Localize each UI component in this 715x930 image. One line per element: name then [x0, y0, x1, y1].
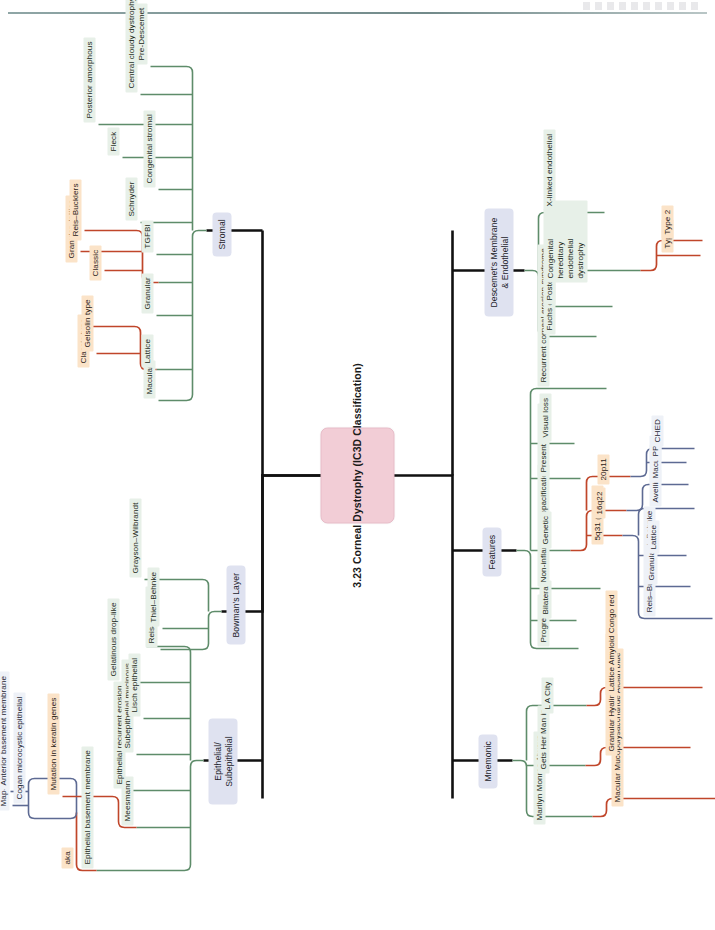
leaf-granular-stromal[interactable]: Granular — [142, 273, 152, 313]
mindmap-rotated-wrapper: 3.23 Corneal Dystrophy (IC3D Classificat… — [0, 0, 715, 930]
category-label: Stromal — [212, 212, 231, 256]
leaf-grayson-wilbrandt[interactable]: Grayson–Wilbrandt — [130, 498, 140, 577]
leaf-locus-20p11[interactable]: 20p11 — [598, 454, 608, 484]
leaf-lattice-gelsolin-type[interactable]: Gelsolin type — [82, 295, 92, 351]
leaf-label: Epithelial basement membrane — [81, 746, 93, 868]
leaf-granular-reis-bucklers[interactable]: Reis–Bucklers — [70, 179, 80, 240]
leaf-label: Granular — [141, 273, 153, 313]
leaf-thiel-behnke-bowman[interactable]: Thiel–Behnke — [148, 567, 158, 626]
leaf-label: Mutation in keratin genes — [47, 693, 59, 794]
leaf-gelatinous-drop-like[interactable]: Gelatinous drop-like — [108, 598, 118, 680]
leaf-label: 16q22 — [593, 487, 605, 518]
category-label: Mnemonic — [478, 734, 497, 788]
leaf-lattice-genetic[interactable]: Lattice — [648, 520, 658, 553]
leaf-fleck[interactable]: Fleck — [108, 127, 118, 155]
leaf-tgfbi[interactable]: TGFBI — [142, 220, 152, 252]
leaf-granular-classic[interactable]: Classic — [90, 245, 100, 280]
leaf-label: Gelsolin type — [81, 295, 93, 351]
leaf-label: Schnyder — [125, 177, 137, 220]
leaf-label: Anterior basement membrane — [0, 671, 9, 789]
leaf-pre-descemet[interactable]: Pre-Descemet — [136, 3, 146, 64]
leaf-label: CHED — [651, 415, 663, 446]
page-canvas: 3.23 Corneal Dystrophy (IC3D Classificat… — [0, 0, 715, 930]
leaf-label: Gelatinous drop-like — [107, 598, 119, 680]
category-descemet-endothelial[interactable]: Descemet's Membrane & Endothelial — [484, 208, 513, 316]
leaf-label: Congenital stromal — [143, 110, 155, 187]
category-stromal[interactable]: Stromal — [212, 212, 231, 256]
leaf-lattice-amyloid-congo-red[interactable]: Lattice Amyloid Congo red — [606, 590, 616, 695]
leaf-label: 20p11 — [597, 454, 609, 484]
category-features[interactable]: Features — [482, 527, 501, 576]
leaf-schnyder[interactable]: Schnyder — [126, 177, 136, 220]
leaf-label: Type 2 — [661, 205, 673, 238]
leaf-label: Gets Her Man in — [537, 705, 549, 773]
leaf-label: Congenital hereditary endothelial dystro… — [544, 200, 587, 282]
leaf-ched-type-2[interactable]: Type 2 — [662, 205, 672, 238]
root-node[interactable]: 3.23 Corneal Dystrophy (IC3D Classificat… — [320, 427, 394, 523]
category-label: Features — [482, 527, 501, 576]
category-epithelial-subepithelial[interactable]: Epithelial/ Subepithelial — [208, 718, 237, 804]
leaf-la-city[interactable]: L A City — [542, 677, 552, 713]
leaf-label: Posterior amorphous — [83, 37, 95, 122]
leaf-label: Reis–Bucklers — [69, 179, 81, 240]
category-label: Bowman's Layer — [226, 565, 245, 644]
leaf-congenital-stromal[interactable]: Congenital stromal — [144, 110, 154, 187]
leaf-x-linked-endothelial[interactable]: X-linked endothelial — [544, 129, 554, 210]
leaf-label: Pre-Descemet — [135, 3, 147, 64]
leaf-epithelial-basement-membrane[interactable]: Epithelial basement membrane — [82, 746, 92, 868]
leaf-central-cloudy-dystrophy-francois[interactable]: Central cloudy dystrophy of Francois — [126, 0, 136, 92]
leaf-label: Lattice Amyloid Congo red — [605, 590, 617, 695]
leaf-anterior-basement-membrane[interactable]: Anterior basement membrane — [0, 671, 8, 789]
leaf-locus-16q22[interactable]: 16q22 — [594, 487, 604, 518]
category-bowmans-layer[interactable]: Bowman's Layer — [226, 565, 245, 644]
leaf-label: Visual loss — [539, 393, 551, 441]
link-label: aka — [61, 847, 73, 868]
leaf-label: X-linked endothelial — [543, 129, 555, 210]
leaf-posterior-amorphous[interactable]: Posterior amorphous — [84, 37, 94, 122]
category-label: Descemet's Membrane & Endothelial — [484, 208, 513, 316]
leaf-visual-loss[interactable]: Visual loss — [540, 393, 550, 441]
leaf-lattice-stromal[interactable]: Lattice — [142, 334, 152, 367]
root-label: 3.23 Corneal Dystrophy (IC3D Classificat… — [350, 363, 364, 587]
leaf-label: Fleck — [107, 127, 119, 155]
leaf-label: Thiel–Behnke — [147, 567, 159, 626]
leaf-label: Classic — [89, 245, 101, 280]
leaf-lisch-epithelial[interactable]: Lisch epithelial — [129, 653, 139, 716]
leaf-label: L A City — [541, 677, 553, 713]
mindmap-canvas: 3.23 Corneal Dystrophy (IC3D Classificat… — [0, 0, 715, 930]
leaf-ched[interactable]: CHED — [652, 415, 662, 446]
leaf-cogan-microcystic-epithelial[interactable]: Cogan microcystic epithelial — [14, 692, 24, 803]
leaf-congenital-hereditary-endothelial-dystrophy[interactable]: Congenital hereditary endothelial dystro… — [544, 200, 587, 282]
leaf-label: Grayson–Wilbrandt — [129, 498, 141, 577]
leaf-label: Lattice — [647, 520, 659, 553]
leaf-label: Lisch epithelial — [128, 653, 140, 716]
leaf-gets-her-man-in[interactable]: Gets Her Man in — [538, 705, 548, 773]
link-label-aka[interactable]: aka — [62, 847, 72, 868]
leaf-label: Lattice — [141, 334, 153, 367]
leaf-genetic[interactable]: Genetic — [540, 511, 550, 548]
leaf-label: TGFBI — [141, 220, 153, 252]
leaf-mutation-keratin-genes[interactable]: Mutation in keratin genes — [48, 693, 58, 794]
leaf-label: Cogan microcystic epithelial — [13, 692, 25, 803]
category-mnemonic[interactable]: Mnemonic — [478, 734, 497, 788]
category-label: Epithelial/ Subepithelial — [208, 718, 237, 804]
leaf-label: Genetic — [539, 511, 551, 548]
